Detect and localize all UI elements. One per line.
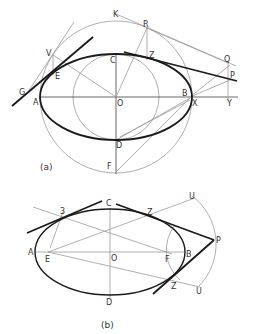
label-y: Y [226, 99, 232, 108]
label-b: B [182, 89, 188, 98]
label-x: X [192, 99, 198, 108]
line-x-p [190, 80, 230, 97]
label-o-b: O [111, 254, 117, 263]
label-e-b: E [45, 255, 50, 264]
line-r-q [147, 28, 228, 63]
label-f-b: F [165, 255, 170, 264]
label-f: F [107, 162, 112, 171]
figure-a: K R V Z C Q P E G A O B X Y D F (a) [12, 10, 238, 174]
label-d: D [116, 141, 122, 150]
geometry-figure: K R V Z C Q P E G A O B X Y D F (a) [0, 0, 254, 334]
caption-a: (a) [40, 162, 53, 172]
label-d-b: D [106, 298, 112, 307]
line-3-e [50, 212, 63, 248]
label-v: V [46, 49, 52, 58]
line-o-r [116, 28, 147, 97]
label-o: O [117, 99, 123, 108]
label-p-b: P [216, 236, 221, 245]
line-e-u2 [48, 252, 200, 287]
caption-b: (b) [101, 320, 114, 330]
label-3-b: 3 [60, 207, 65, 216]
label-c-b: C [106, 199, 112, 208]
label-k: K [113, 10, 119, 19]
label-c: C [110, 56, 116, 65]
label-g: G [19, 88, 25, 97]
label-u2-b: U [196, 287, 202, 296]
tangent-3 [27, 201, 102, 233]
label-r: R [143, 20, 149, 29]
label-a-b: A [28, 248, 34, 257]
label-z: Z [149, 51, 155, 60]
line-o-v [53, 55, 116, 97]
line-d-x [116, 98, 190, 140]
label-e: E [55, 72, 60, 81]
label-p: P [230, 71, 235, 80]
label-b-b: B [186, 250, 192, 259]
label-z1-b: Z [147, 208, 153, 217]
figure-b: C Z U 3 P A E O F B Z U D (b) [27, 192, 221, 330]
label-q: Q [224, 55, 230, 64]
label-z2-b: Z [171, 282, 177, 291]
label-u1-b: U [189, 192, 195, 201]
tangent-p-z-b [153, 240, 214, 294]
label-a: A [33, 98, 39, 107]
line-d-x-2 [120, 100, 190, 137]
